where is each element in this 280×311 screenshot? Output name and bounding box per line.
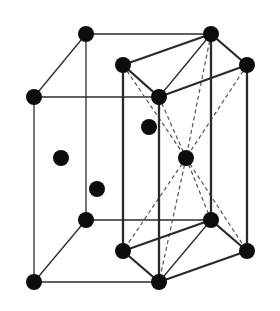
- dashed-bond: [123, 65, 186, 158]
- atom-a9: [178, 150, 194, 166]
- atom-a11: [78, 212, 94, 228]
- dashed-bond: [186, 34, 211, 158]
- atom-a12: [203, 212, 219, 228]
- hcp-crystal-diagram: [0, 0, 280, 311]
- atom-a14: [239, 243, 255, 259]
- atom-a3: [115, 57, 131, 73]
- atom-a2: [203, 26, 219, 42]
- atom-a7: [141, 119, 157, 135]
- dashed-bond: [186, 158, 247, 251]
- atom-a6: [151, 89, 167, 105]
- dashed-bond: [123, 158, 186, 251]
- dashed-bond: [159, 97, 186, 158]
- atom-a10: [89, 181, 105, 197]
- atom-a5: [26, 89, 42, 105]
- atom-a8: [53, 150, 69, 166]
- thin-edge: [34, 34, 86, 97]
- thin-edge: [34, 220, 86, 282]
- atom-a1: [78, 26, 94, 42]
- atom-a16: [151, 274, 167, 290]
- dashed-bond: [186, 158, 211, 220]
- atom-a15: [26, 274, 42, 290]
- atom-a4: [239, 57, 255, 73]
- atom-a13: [115, 243, 131, 259]
